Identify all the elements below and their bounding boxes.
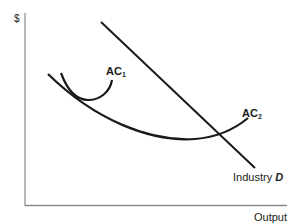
ac1-label: AC1 [106, 65, 126, 78]
industry-demand-label: Industry D [233, 171, 283, 183]
ac1-curve [61, 73, 112, 100]
industry-demand-curve [101, 22, 255, 168]
economics-diagram: $ Output AC1 AC2 Industry D [0, 0, 299, 224]
ac2-label: AC2 [242, 107, 262, 120]
y-axis-label: $ [14, 13, 20, 24]
x-axis-label: Output [254, 211, 287, 223]
ac2-curve [48, 74, 248, 139]
